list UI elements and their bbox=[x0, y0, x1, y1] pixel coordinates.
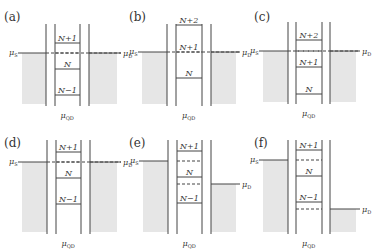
drain-reservoir bbox=[211, 184, 236, 232]
charge-state-label: N+1 bbox=[58, 143, 78, 152]
source-reservoir bbox=[142, 52, 167, 104]
source-reservoir bbox=[263, 160, 288, 232]
mu-s-label: μS bbox=[129, 47, 138, 57]
source-reservoir bbox=[22, 162, 47, 232]
mu-s-label: μS bbox=[9, 48, 18, 58]
drain-reservoir bbox=[330, 209, 356, 232]
charge-state-label: N−1 bbox=[179, 194, 199, 203]
panel-label: (e) bbox=[129, 136, 145, 150]
drain-reservoir bbox=[211, 52, 236, 104]
charge-state-label: N bbox=[185, 168, 194, 177]
charge-state-label: N bbox=[305, 167, 314, 176]
mu-qd-label: μQD bbox=[62, 239, 75, 249]
source-reservoir bbox=[143, 161, 168, 232]
mu-qd-label: μQD bbox=[183, 239, 196, 249]
mu-s-label: μS bbox=[9, 157, 18, 167]
charge-state-label: N+1 bbox=[299, 58, 319, 67]
drain-reservoir bbox=[89, 53, 117, 104]
charge-state-label: N+2 bbox=[179, 16, 199, 25]
charge-state-label: N+2 bbox=[299, 31, 319, 40]
mu-s-label: μS bbox=[250, 46, 259, 56]
charge-state-label: N bbox=[63, 60, 72, 69]
panel-e: (e)N+1NN−1μSμDμQD bbox=[129, 136, 251, 249]
mu-qd-label: μQD bbox=[61, 111, 74, 121]
mu-qd-label: μQD bbox=[182, 111, 195, 121]
panel-a: (a)N+1NN−1μSμDμQD bbox=[4, 10, 132, 121]
charge-state-label: N−1 bbox=[299, 193, 319, 202]
mu-qd-label: μQD bbox=[302, 109, 315, 119]
drain-reservoir bbox=[330, 51, 356, 102]
panel-label: (d) bbox=[4, 136, 21, 150]
quantum-dot-energy-diagram: (a)N+1NN−1μSμDμQD(b)N+2N+1NμSμDμQD(c)N+2… bbox=[0, 0, 376, 252]
charge-state-label: N−1 bbox=[58, 195, 78, 204]
mu-s-label: μS bbox=[250, 155, 259, 165]
mu-d-label: μD bbox=[362, 205, 371, 215]
source-reservoir bbox=[263, 51, 288, 102]
charge-state-label: N−1 bbox=[57, 86, 77, 95]
charge-state-label: N bbox=[185, 69, 194, 78]
panel-label: (f) bbox=[254, 136, 268, 150]
panel-label: (a) bbox=[4, 10, 21, 24]
charge-state-label: N+1 bbox=[299, 141, 319, 150]
mu-d-label: μD bbox=[362, 47, 371, 57]
mu-qd-label: μQD bbox=[302, 239, 315, 249]
charge-state-label: N+1 bbox=[179, 142, 199, 151]
panel-c: (c)N+2N+1NμSμDμQD bbox=[250, 10, 371, 119]
charge-state-label: N bbox=[64, 169, 73, 178]
charge-state-label: N bbox=[305, 85, 314, 94]
mu-d-label: μD bbox=[242, 180, 251, 190]
panel-d: (d)N+1NN−1μSμDμQD bbox=[4, 136, 132, 249]
charge-state-label: N+1 bbox=[57, 34, 77, 43]
panel-label: (b) bbox=[129, 10, 146, 24]
charge-state-label: N+1 bbox=[179, 43, 199, 52]
panel-b: (b)N+2N+1NμSμDμQD bbox=[129, 10, 251, 121]
panel-f: (f)N+1NN−1μSμDμQD bbox=[250, 136, 371, 249]
source-reservoir bbox=[22, 53, 46, 104]
drain-reservoir bbox=[90, 162, 117, 232]
panel-label: (c) bbox=[254, 10, 270, 24]
mu-s-label: μS bbox=[130, 156, 139, 166]
